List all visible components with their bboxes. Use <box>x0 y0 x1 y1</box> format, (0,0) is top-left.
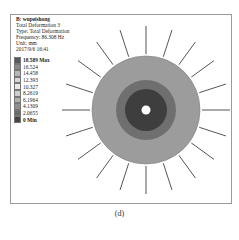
legend-label: 2.0655 <box>23 110 38 116</box>
radial-spoke <box>120 163 129 190</box>
legend-row: 14.458 <box>14 70 50 77</box>
legend-row: 18.589 Max <box>14 57 50 64</box>
legend-label: 16.524 <box>23 64 38 70</box>
radial-spoke <box>97 155 113 178</box>
radial-spoke <box>179 155 195 178</box>
radial-spoke <box>66 84 93 93</box>
radial-spoke <box>163 163 172 190</box>
radial-spoke <box>78 143 101 159</box>
radial-spoke <box>97 42 113 65</box>
legend-swatch <box>14 57 21 64</box>
legend-label: 8.2619 <box>23 90 38 96</box>
deformation-contour-plot <box>50 20 239 205</box>
legend-swatch <box>14 97 21 104</box>
legend-swatch <box>14 90 21 97</box>
radial-spoke <box>191 143 214 159</box>
legend-row: 10.327 <box>14 83 50 90</box>
legend-row: 12.393 <box>14 77 50 84</box>
radial-spoke <box>191 61 214 77</box>
legend-swatch <box>14 64 21 71</box>
legend-label: 0 Min <box>23 117 37 123</box>
legend-swatch <box>14 77 21 84</box>
radial-spoke <box>66 127 93 136</box>
radial-spoke <box>78 61 101 77</box>
legend-row: 8.2619 <box>14 90 50 97</box>
legend-row: 16.524 <box>14 64 50 71</box>
legend-row: 2.0655 <box>14 110 50 117</box>
radial-spoke <box>179 42 195 65</box>
legend-swatch <box>14 83 21 90</box>
legend-row: 0 Min <box>14 116 50 123</box>
legend-label: 10.327 <box>23 84 38 90</box>
legend-label: 12.393 <box>23 77 38 83</box>
legend-label: 14.458 <box>23 70 38 76</box>
legend-label: 4.1309 <box>23 103 38 109</box>
radial-spoke <box>199 84 226 93</box>
radial-spoke <box>120 30 129 57</box>
legend-label: 6.1964 <box>23 97 38 103</box>
legend-swatch <box>14 103 21 110</box>
color-legend: 18.589 Max16.52414.45812.39310.3278.2619… <box>14 57 50 123</box>
legend-swatch <box>14 70 21 77</box>
center-hole <box>142 106 151 115</box>
radial-spoke <box>199 127 226 136</box>
radial-spoke <box>163 30 172 57</box>
legend-swatch <box>14 110 21 117</box>
legend-swatch <box>14 116 21 123</box>
legend-row: 4.1309 <box>14 103 50 110</box>
legend-label: 18.589 Max <box>23 57 50 63</box>
figure-caption: (d) <box>0 209 239 218</box>
legend-row: 6.1964 <box>14 97 50 104</box>
